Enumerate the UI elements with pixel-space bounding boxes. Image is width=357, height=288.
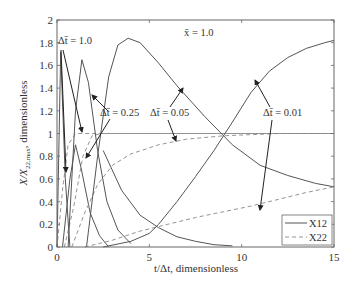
x-tick-label: 0 xyxy=(54,251,60,263)
y-axis-label: X/X22,max, dimensionless xyxy=(17,80,32,186)
x-tick-label: 5 xyxy=(147,251,153,263)
y-tick-label: 0.6 xyxy=(39,173,53,185)
y-tick-label: 1.2 xyxy=(39,105,53,117)
y-tick-label: 1 xyxy=(48,128,54,140)
y-tick-label: 0.8 xyxy=(39,150,53,162)
annotation-dt-001: Δt̄ = 0.01 xyxy=(263,107,302,118)
legend-label-x12: X12 xyxy=(309,218,327,229)
chart: 00.20.40.60.811.21.41.61.82051015 Δt̄ = … xyxy=(0,0,357,288)
y-tick-label: 0 xyxy=(48,241,54,253)
y-tick-label: 0.4 xyxy=(39,196,53,208)
y-tick-label: 2 xyxy=(48,14,54,26)
legend-label-x22: X22 xyxy=(309,232,327,243)
series-line xyxy=(103,151,232,246)
x-axis-label: t/Δt, dimensionless xyxy=(154,262,238,274)
annotation-x-bar: x̄ = 1.0 xyxy=(184,27,214,38)
legend: X12 X22 xyxy=(282,215,332,245)
y-tick-label: 1.8 xyxy=(39,37,53,49)
x-tick-label: 15 xyxy=(329,251,341,263)
annotation-dt-1: Δt̄ = 1.0 xyxy=(58,35,92,46)
y-tick-label: 0.2 xyxy=(39,218,53,230)
annotation-dt-005: Δt̄ = 0.05 xyxy=(150,107,189,118)
annotation-arrows xyxy=(61,50,272,210)
y-tick-label: 1.6 xyxy=(39,59,53,71)
y-tick-label: 1.4 xyxy=(39,82,53,94)
